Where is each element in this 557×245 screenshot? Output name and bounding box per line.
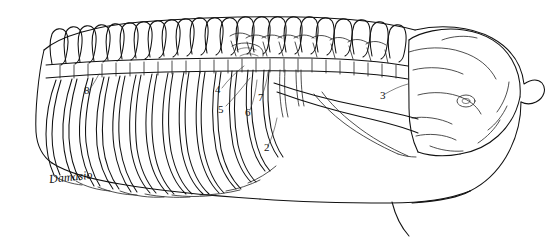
label-2: 2 (264, 142, 270, 153)
label-8: 8 (84, 85, 90, 96)
body-outline (36, 17, 545, 236)
skull (409, 29, 521, 156)
label-4: 4 (215, 84, 221, 95)
label-5: 5 (218, 104, 224, 115)
vertebral-column (46, 58, 408, 79)
skeleton-line-art (0, 0, 557, 245)
skeleton-diagram-figure: 8 4 5 6 7 3 2 Damasio (0, 0, 557, 245)
label-6: 6 (245, 107, 251, 118)
label-7: 7 (258, 92, 264, 103)
hyoid-and-throat-lines (274, 83, 418, 157)
label-3: 3 (380, 90, 386, 101)
